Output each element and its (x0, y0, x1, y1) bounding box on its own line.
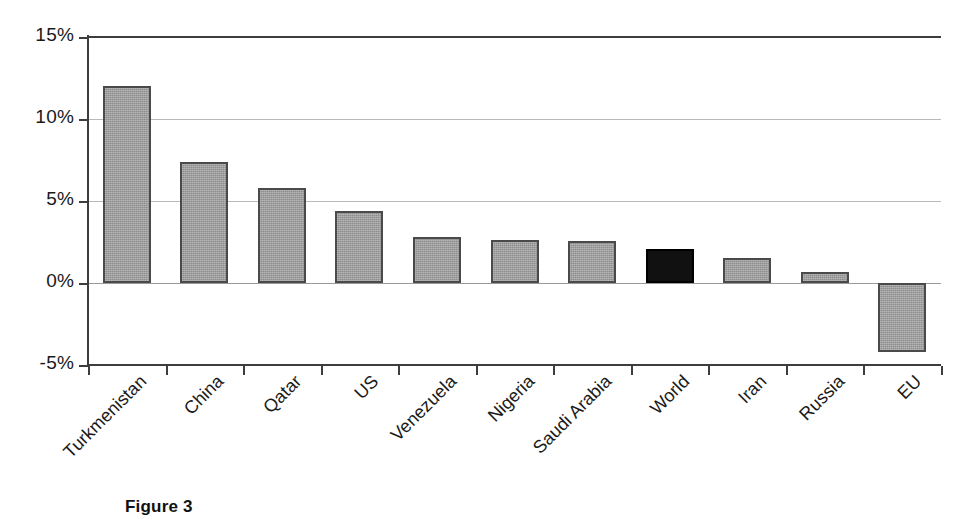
x-tick (243, 366, 245, 375)
figure-caption: Figure 3 (125, 497, 193, 517)
x-tick (708, 366, 710, 375)
x-tick (166, 366, 168, 375)
x-tick (553, 366, 555, 375)
x-tick (786, 366, 788, 375)
x-axis: TurkmenistanChinaQatarUSVenezuelaNigeria… (0, 0, 961, 528)
x-tick (398, 366, 400, 375)
x-tick (631, 366, 633, 375)
x-tick (88, 366, 90, 375)
x-tick (321, 366, 323, 375)
figure-3-bar-chart: 15%10%5%0%-5% TurkmenistanChinaQatarUSVe… (0, 0, 961, 528)
x-tick (476, 366, 478, 375)
x-tick (941, 366, 943, 375)
x-tick (863, 366, 865, 375)
